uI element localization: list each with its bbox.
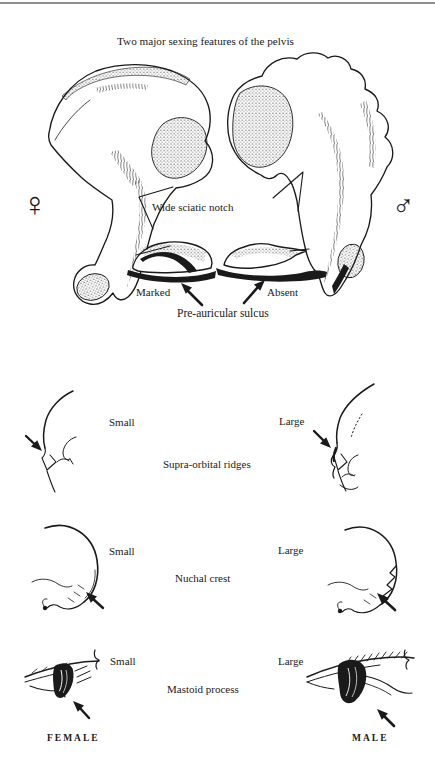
sulcus-absent-label: Absent (267, 286, 298, 298)
supraorbital-large-arrow (314, 431, 331, 448)
mastoid-large-arrow (377, 709, 394, 726)
male-symbol: ♂ (392, 191, 415, 221)
male-column-label: MALE (352, 733, 389, 743)
supraorbital-small-drawing (42, 391, 76, 492)
sulcus-caption: Pre-auricular sulcus (177, 307, 269, 320)
nuchal-large-arrow (377, 593, 395, 610)
nuchal-large-label: Large (278, 544, 303, 556)
sulcus-marked-label: Marked (136, 286, 170, 298)
nuchal-small-drawing (32, 525, 98, 610)
sulcus-marked-drawing (127, 242, 216, 283)
supraorbital-small-arrow (26, 436, 42, 451)
anatomical-illustration (0, 0, 435, 772)
mastoid-small-label: Small (110, 655, 136, 667)
mastoid-large-drawing (307, 650, 414, 703)
marked-arrow (181, 283, 202, 305)
supraorbital-small-label: Small (109, 416, 135, 428)
mastoid-large-label: Large (278, 655, 303, 667)
supraorbital-large-label: Large (279, 415, 304, 427)
book-page: Two major sexing features of the pelvis (0, 0, 435, 772)
mastoid-small-drawing (25, 650, 99, 698)
sciatic-notch-label: Wide sciatic notch (152, 201, 233, 213)
mastoid-title: Mastoid process (167, 683, 239, 695)
nuchal-large-drawing (328, 527, 397, 613)
nuchal-small-arrow (86, 592, 103, 608)
mastoid-small-arrow (73, 701, 89, 718)
absent-arrow (244, 280, 265, 303)
supraorbital-title: Supra-orbital ridges (163, 458, 251, 470)
nuchal-title: Nuchal crest (175, 572, 230, 584)
supraorbital-large-drawing (331, 384, 374, 491)
female-column-label: FEMALE (47, 733, 100, 743)
nuchal-small-label: Small (109, 545, 135, 557)
female-symbol: ♀ (22, 188, 48, 222)
